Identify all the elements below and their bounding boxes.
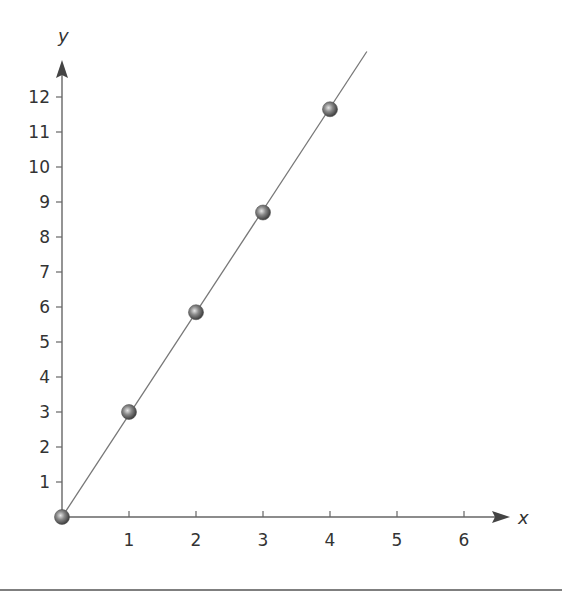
chart: xy 123456123456789101112	[0, 0, 562, 601]
y-tick-label: 1	[39, 472, 50, 492]
y-tick-label: 10	[28, 157, 50, 177]
x-tick-label: 3	[258, 530, 269, 550]
data-point-marker	[122, 405, 137, 420]
data-point-marker	[55, 510, 70, 525]
x-tick-label: 1	[124, 530, 135, 550]
y-tick-label: 4	[39, 367, 50, 387]
ticks: 123456123456789101112	[28, 87, 469, 550]
y-tick-label: 2	[39, 437, 50, 457]
data-point-marker	[256, 205, 271, 220]
y-tick-label: 6	[39, 297, 50, 317]
y-tick-label: 9	[39, 192, 50, 212]
y-tick-label: 12	[28, 87, 50, 107]
data-point-marker	[323, 102, 338, 117]
axes: xy	[56, 25, 529, 528]
x-tick-label: 2	[191, 530, 202, 550]
y-tick-label: 7	[39, 262, 50, 282]
y-tick-label: 8	[39, 227, 50, 247]
x-tick-label: 4	[325, 530, 336, 550]
data-point-marker	[189, 305, 204, 320]
best-fit-line	[62, 52, 367, 518]
x-tick-label: 5	[392, 530, 403, 550]
x-tick-label: 6	[459, 530, 470, 550]
y-tick-label: 5	[39, 332, 50, 352]
y-axis-label: y	[57, 25, 69, 46]
y-tick-label: 3	[39, 402, 50, 422]
y-tick-label: 11	[28, 122, 50, 142]
x-axis-label: x	[517, 507, 529, 528]
data-points	[55, 102, 338, 525]
